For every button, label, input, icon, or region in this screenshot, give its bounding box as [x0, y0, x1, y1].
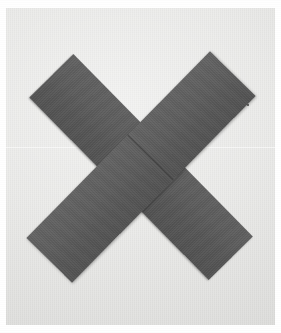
dust-speck — [247, 104, 249, 106]
strip-joint-seam — [127, 134, 173, 180]
x-shape-assembly — [6, 8, 275, 325]
photograph — [0, 0, 281, 333]
backdrop-surface — [6, 8, 275, 325]
